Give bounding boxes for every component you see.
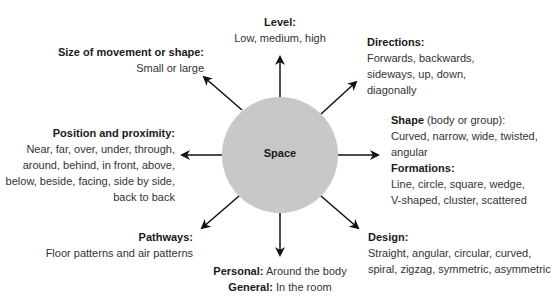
position-line: below, beside, facing, side by side, [0, 173, 175, 189]
formations-line: V-shaped, cluster, scattered [391, 192, 556, 208]
node-shape: Shape (body or group): Curved, narrow, w… [391, 112, 556, 208]
level-line: Low, medium, high [220, 30, 340, 46]
node-size: Size of movement or shape: Small or larg… [20, 44, 204, 76]
node-personal-general: Personal: Around the body General: In th… [200, 263, 360, 295]
general-text: In the room [273, 281, 332, 293]
pathways-title: Pathways: [139, 231, 193, 243]
design-line: spiral, zigzag, symmetric, asymmetric [368, 261, 556, 277]
arrow-design [321, 196, 358, 228]
size-line: Small or large [20, 60, 204, 76]
formations-title: Formations: [391, 162, 455, 174]
position-title: Position and proximity: [53, 127, 175, 139]
position-line: around, behind, in front, above, [0, 157, 175, 173]
shape-line: angular [391, 144, 556, 160]
directions-line: sideways, up, down, [367, 66, 547, 82]
position-line: Near, far, over, under, through, [0, 141, 175, 157]
shape-line: Curved, narrow, wide, twisted, [391, 128, 556, 144]
personal-title: Personal: [213, 265, 263, 277]
directions-line: Forwards, backwards, [367, 50, 547, 66]
node-position: Position and proximity: Near, far, over,… [0, 125, 175, 205]
pathways-line: Floor patterns and air patterns [20, 245, 193, 261]
formations-line: Line, circle, square, wedge, [391, 176, 556, 192]
design-line: Straight, angular, circular, curved, [368, 245, 556, 261]
arrow-size [204, 77, 242, 110]
node-level: Level: Low, medium, high [220, 14, 340, 46]
directions-title: Directions: [367, 36, 424, 48]
size-title: Size of movement or shape: [58, 46, 204, 58]
general-title: General: [228, 281, 273, 293]
position-line: back to back [0, 189, 175, 205]
node-design: Design: Straight, angular, circular, cur… [368, 229, 556, 277]
shape-title: Shape [391, 114, 424, 126]
node-directions: Directions: Forwards, backwards, sideway… [367, 34, 547, 98]
shape-title-suffix: (body or group): [424, 114, 505, 126]
personal-text: Around the body [263, 265, 346, 277]
node-pathways: Pathways: Floor patterns and air pattern… [20, 229, 193, 261]
arrow-directions [321, 82, 356, 114]
center-label: Space [250, 147, 310, 159]
directions-line: diagonally [367, 82, 547, 98]
level-title: Level: [264, 16, 296, 28]
design-title: Design: [368, 231, 408, 243]
arrow-pathways [202, 196, 239, 228]
